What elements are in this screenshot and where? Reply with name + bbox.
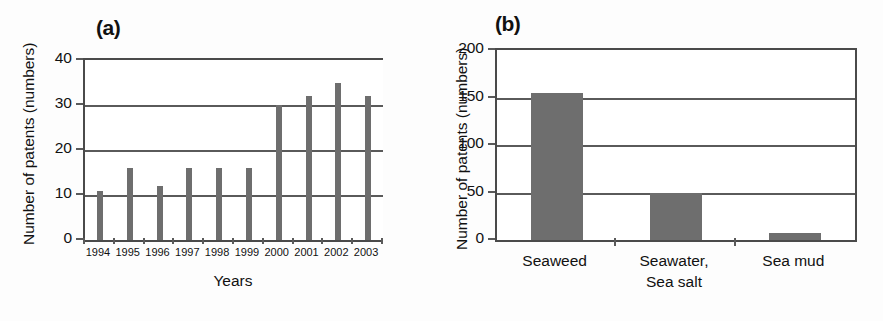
x-tick-label: 1995 [115, 246, 139, 258]
panel-a-x-axis-title: Years [83, 272, 383, 290]
bar [306, 96, 312, 240]
bar [335, 83, 341, 241]
x-tick-mark [172, 238, 174, 244]
y-tick-label: 150 [458, 87, 484, 105]
y-tick-label: 0 [475, 229, 484, 247]
panel-a: (a) Number of patents (numbers) Years 01… [0, 0, 440, 321]
bar [769, 233, 821, 240]
x-tick-label: 2001 [294, 246, 318, 258]
x-tick-mark [734, 238, 736, 246]
y-tick-mark [76, 103, 83, 105]
y-tick-mark [488, 191, 495, 193]
bar [157, 186, 163, 240]
x-tick-label: 1994 [86, 246, 110, 258]
bar [365, 96, 371, 240]
y-tick-label: 100 [458, 134, 484, 152]
y-tick-mark [76, 193, 83, 195]
y-tick-mark [76, 238, 83, 240]
figure-container: (a) Number of patents (numbers) Years 01… [0, 0, 883, 321]
panel-a-label: (a) [96, 16, 120, 40]
y-tick-label: 50 [467, 182, 484, 200]
category-label: Seawater, Sea salt [640, 251, 709, 293]
x-tick-mark [143, 238, 145, 244]
y-tick-label: 30 [55, 94, 72, 112]
y-tick-label: 40 [55, 49, 72, 67]
panel-a-y-axis-title: Number of patents (numbers) [20, 43, 38, 245]
x-tick-mark [381, 238, 383, 244]
y-tick-mark [488, 238, 495, 240]
bar [127, 168, 133, 240]
panel-b-label: (b) [495, 12, 520, 36]
x-tick-label: 1997 [175, 246, 199, 258]
bar [97, 191, 103, 241]
x-tick-label: 2000 [264, 246, 288, 258]
panel-b: (b) Number of patents (numbers) 05010015… [440, 0, 883, 321]
x-tick-label: 2003 [354, 246, 378, 258]
x-tick-label: 1996 [145, 246, 169, 258]
x-tick-mark [292, 238, 294, 244]
bar [246, 168, 252, 240]
bar [186, 168, 192, 240]
y-tick-label: 200 [458, 39, 484, 57]
bar [650, 193, 702, 240]
bar [216, 168, 222, 240]
y-tick-mark [76, 148, 83, 150]
y-tick-label: 0 [63, 229, 72, 247]
x-tick-mark [232, 238, 234, 244]
x-tick-mark [614, 238, 616, 246]
x-tick-mark [83, 238, 85, 244]
x-tick-mark [321, 238, 323, 244]
y-tick-mark [76, 58, 83, 60]
y-tick-mark [488, 143, 495, 145]
panel-a-plot-area [83, 58, 383, 242]
y-tick-mark [488, 96, 495, 98]
x-tick-label: 1999 [235, 246, 259, 258]
bar [276, 105, 282, 240]
y-tick-label: 20 [55, 139, 72, 157]
y-tick-label: 10 [55, 184, 72, 202]
x-tick-mark [202, 238, 204, 244]
x-tick-label: 1998 [205, 246, 229, 258]
x-tick-mark [262, 238, 264, 244]
category-label: Seaweed [522, 251, 587, 272]
x-tick-mark [113, 238, 115, 244]
panel-b-plot-area [495, 48, 857, 242]
category-label: Sea mud [762, 251, 824, 272]
x-tick-mark [351, 238, 353, 244]
y-tick-mark [488, 48, 495, 50]
bar [531, 93, 583, 240]
x-tick-label: 2002 [324, 246, 348, 258]
